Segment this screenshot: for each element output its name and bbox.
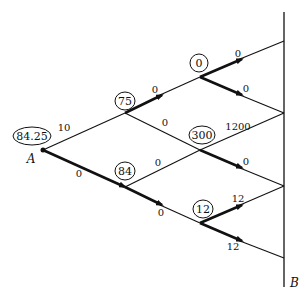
edge-n4-R3-thin (240, 168, 284, 186)
edge-label-n3-R2: 0 (243, 83, 249, 94)
edge-n3-R1-thin (240, 41, 284, 59)
edge-n4-R3 (200, 150, 242, 168)
edge-label-n5-R3: 12 (232, 193, 245, 204)
edge-n3-R2-thin (240, 95, 284, 113)
edge-label-n2-n5: 0 (158, 207, 164, 218)
edge-label-n5-R4: 12 (227, 241, 240, 252)
edge-n1-n3-thin (160, 77, 200, 95)
node-A-value: 84.25 (16, 130, 48, 143)
edge-label-n3-R1: 0 (235, 48, 241, 59)
edge-n5-R4 (200, 223, 242, 241)
edge-n5-R4-thin (240, 241, 284, 258)
edge-n5-R3-thin (240, 186, 284, 205)
node-n4-value: 300 (192, 129, 213, 142)
edge-A-n1 (43, 113, 125, 150)
node-n2-value: 84 (118, 165, 132, 178)
edge-label-n2-n4: 0 (155, 157, 161, 168)
edge-label-n1-n3: 0 (152, 84, 158, 95)
node-n3-value: 0 (196, 57, 203, 70)
node-n5-value: 12 (196, 203, 210, 216)
terminal-B-label: B (289, 276, 299, 290)
start-point (41, 148, 46, 153)
edge-n2-n5 (125, 187, 162, 205)
edge-n2-n4 (125, 150, 200, 187)
edge-label-n4-R3: 0 (243, 156, 249, 167)
lattice-diagram: 84.25 75 84 0 300 12 10 0 0 0 0 0 0 0 12… (0, 0, 308, 303)
edge-label-A-n2: 0 (76, 168, 82, 179)
node-n1-value: 75 (118, 95, 132, 108)
edge-A-n2 (43, 150, 125, 187)
edge-label-n4-R2: 1200 (225, 121, 250, 132)
edge-label-n1-n4: 0 (162, 117, 168, 128)
edge-label-A-n1: 10 (58, 122, 71, 133)
edge-n3-R2 (200, 77, 242, 95)
terminal-A-label: A (26, 152, 36, 166)
